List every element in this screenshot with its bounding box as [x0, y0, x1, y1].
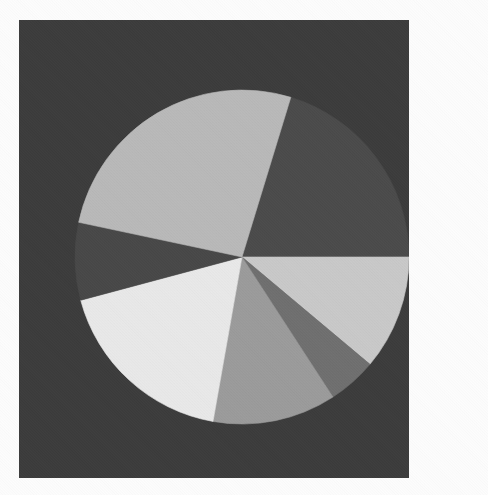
page-canvas [0, 0, 488, 495]
pie-chart-panel [19, 20, 409, 478]
pie-chart-svg [19, 20, 409, 478]
pie-slice-group [75, 90, 409, 424]
